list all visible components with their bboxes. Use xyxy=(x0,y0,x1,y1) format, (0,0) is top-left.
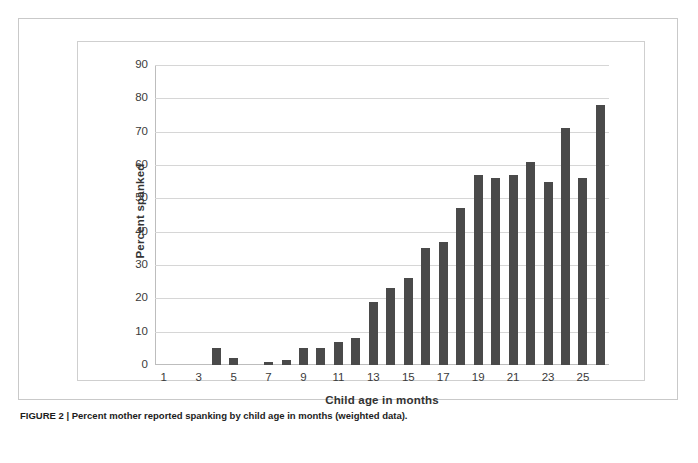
bar xyxy=(316,348,325,365)
caption-text: FIGURE 2 | Percent mother reported spank… xyxy=(20,410,407,421)
y-axis-tick-label: 80 xyxy=(135,93,148,105)
x-axis-tick-label: 3 xyxy=(195,372,201,384)
x-axis-tick-label: 11 xyxy=(332,372,344,384)
bar-column: 7 xyxy=(260,65,277,365)
bar-column xyxy=(312,65,329,365)
bar-column: 15 xyxy=(400,65,417,365)
y-axis-tick-label: 40 xyxy=(135,226,148,238)
x-axis-tick-label: 19 xyxy=(472,372,485,384)
plot-area: 0102030405060708090 13579111315171921232… xyxy=(155,65,609,365)
y-axis-tick-label: 50 xyxy=(135,193,148,205)
bar xyxy=(386,288,395,365)
bar-column: 9 xyxy=(295,65,312,365)
bar xyxy=(351,338,360,365)
x-axis-title: Child age in months xyxy=(155,394,609,406)
x-axis-tick-label: 7 xyxy=(265,372,271,384)
bar-column xyxy=(172,65,189,365)
bar xyxy=(264,362,273,365)
bar-column: 17 xyxy=(435,65,452,365)
bar xyxy=(404,278,413,365)
bar-column: 5 xyxy=(225,65,242,365)
x-axis-tick-label: 25 xyxy=(577,372,590,384)
x-axis-tick-label: 5 xyxy=(230,372,236,384)
y-axis-tick-label: 60 xyxy=(135,159,148,171)
x-axis-tick-label: 23 xyxy=(542,372,555,384)
bar-column xyxy=(242,65,259,365)
y-axis-tick-label: 90 xyxy=(135,59,148,71)
y-axis-tick-label: 10 xyxy=(135,326,148,338)
bar-column xyxy=(487,65,504,365)
x-axis-tick-label: 13 xyxy=(367,372,380,384)
figure-page: Percent spanked 0102030405060708090 1357… xyxy=(0,0,698,463)
figure-caption: FIGURE 2 | Percent mother reported spank… xyxy=(20,410,670,422)
bar-column xyxy=(277,65,294,365)
bar-column xyxy=(347,65,364,365)
bar xyxy=(491,178,500,365)
bar-series: 135791113151719212325 xyxy=(155,65,609,365)
bar-column xyxy=(557,65,574,365)
bar xyxy=(369,302,378,365)
bar-column xyxy=(207,65,224,365)
figure-outer-box: Percent spanked 0102030405060708090 1357… xyxy=(18,18,678,400)
bar-column xyxy=(592,65,609,365)
bar-column: 11 xyxy=(330,65,347,365)
bar-column xyxy=(382,65,399,365)
bar-column xyxy=(522,65,539,365)
bar-column xyxy=(417,65,434,365)
bar xyxy=(282,360,291,365)
x-axis-tick-label: 9 xyxy=(300,372,306,384)
bar-column: 21 xyxy=(504,65,521,365)
bar xyxy=(421,248,430,365)
bar xyxy=(439,242,448,365)
bar xyxy=(334,342,343,365)
bar-column: 3 xyxy=(190,65,207,365)
y-axis-tick-label: 20 xyxy=(135,293,148,305)
bar xyxy=(526,162,535,365)
bar-column: 19 xyxy=(469,65,486,365)
bar-column: 25 xyxy=(574,65,591,365)
bar-column: 1 xyxy=(155,65,172,365)
y-axis-title: Percent spanked xyxy=(134,163,146,258)
bar xyxy=(596,105,605,365)
bar xyxy=(578,178,587,365)
chart-frame: Percent spanked 0102030405060708090 1357… xyxy=(77,41,645,381)
x-axis-tick-label: 17 xyxy=(437,372,450,384)
bar xyxy=(474,175,483,365)
y-axis-tick-label: 30 xyxy=(135,259,148,271)
bar-column: 23 xyxy=(539,65,556,365)
bar xyxy=(229,358,238,365)
y-axis-tick-label: 0 xyxy=(142,359,148,371)
x-axis-tick-label: 1 xyxy=(161,372,167,384)
bar xyxy=(456,208,465,365)
x-axis-tick-label: 15 xyxy=(402,372,415,384)
bar xyxy=(212,348,221,365)
bar xyxy=(561,128,570,365)
x-axis-tick-label: 21 xyxy=(507,372,520,384)
bar xyxy=(544,182,553,365)
y-axis-tick-label: 70 xyxy=(135,126,148,138)
bar-column: 13 xyxy=(365,65,382,365)
bar xyxy=(509,175,518,365)
bar-column xyxy=(452,65,469,365)
bar xyxy=(299,348,308,365)
